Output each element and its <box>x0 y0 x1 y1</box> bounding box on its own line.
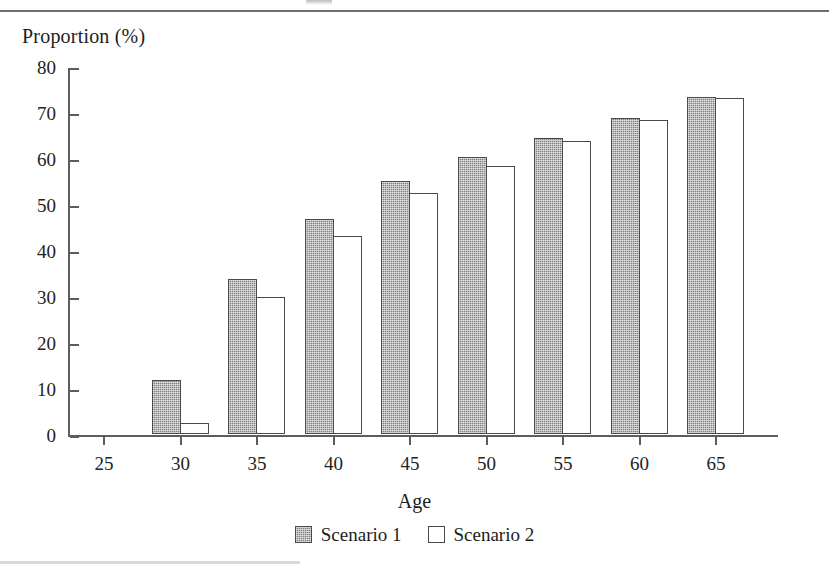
x-axis-tick-label: 30 <box>151 454 211 473</box>
bar-group <box>305 68 363 436</box>
y-axis-tick <box>70 436 79 438</box>
x-axis-tick <box>409 437 411 445</box>
x-axis-tick <box>333 437 335 445</box>
bar-scenario-2[interactable] <box>715 98 744 434</box>
plot-area: 01020304050607080 253035404550556065 <box>68 68 778 436</box>
bar-scenario-1[interactable] <box>305 219 334 434</box>
x-axis-tick-label: 35 <box>227 454 287 473</box>
y-axis-tick-label: 30 <box>10 288 56 307</box>
bar-scenario-2[interactable] <box>180 423 209 434</box>
x-axis-tick <box>256 437 258 445</box>
x-axis-tick <box>715 437 717 445</box>
bar-group <box>75 68 133 436</box>
bar-group <box>381 68 439 436</box>
bar-group <box>458 68 516 436</box>
x-axis-tick-label: 60 <box>610 454 670 473</box>
bar-scenario-1[interactable] <box>611 118 640 434</box>
bar-scenario-2[interactable] <box>639 120 668 434</box>
bar-chart-figure: Proportion (%) 01020304050607080 2530354… <box>0 10 829 568</box>
x-axis-tick-label: 50 <box>457 454 517 473</box>
x-axis-tick-label: 55 <box>533 454 593 473</box>
x-axis-tick <box>180 437 182 445</box>
bar-scenario-2[interactable] <box>486 166 515 434</box>
page-artifact-glyph <box>306 0 332 5</box>
y-axis-tick-label: 40 <box>10 242 56 261</box>
bar-group <box>687 68 745 436</box>
legend-item-scenario-1[interactable]: Scenario 1 <box>295 525 402 544</box>
bar-scenario-1[interactable] <box>458 157 487 434</box>
y-axis-tick-labels: 01020304050607080 <box>10 68 56 437</box>
bar-scenario-2[interactable] <box>562 141 591 434</box>
x-axis-tick <box>562 437 564 445</box>
legend-swatch-icon <box>295 526 312 543</box>
bar-scenario-1[interactable] <box>381 181 410 434</box>
y-axis-tick-label: 0 <box>10 426 56 445</box>
y-axis-tick-label: 50 <box>10 196 56 215</box>
x-axis-tick-label: 40 <box>304 454 364 473</box>
legend-swatch-icon <box>428 526 445 543</box>
bar-group <box>611 68 669 436</box>
bar-scenario-1[interactable] <box>687 97 716 434</box>
chart-legend: Scenario 1Scenario 2 <box>0 525 829 544</box>
bar-scenario-1[interactable] <box>534 138 563 434</box>
bar-scenario-2[interactable] <box>333 236 362 434</box>
y-axis-tick-label: 80 <box>10 58 56 77</box>
y-axis-tick-label: 10 <box>10 380 56 399</box>
x-axis-tick <box>639 437 641 445</box>
legend-item-scenario-2[interactable]: Scenario 2 <box>428 525 535 544</box>
bar-group <box>228 68 286 436</box>
legend-label: Scenario 2 <box>454 525 535 544</box>
x-axis-title: Age <box>0 490 829 513</box>
x-axis-tick-label: 25 <box>74 454 134 473</box>
bar-scenario-2[interactable] <box>409 193 438 435</box>
y-axis-tick-label: 20 <box>10 334 56 353</box>
bar-group <box>534 68 592 436</box>
bar-scenario-2[interactable] <box>256 297 285 434</box>
y-axis-title: Proportion (%) <box>22 25 145 48</box>
x-axis-tick-label: 65 <box>686 454 746 473</box>
legend-label: Scenario 1 <box>321 525 402 544</box>
y-axis-tick-label: 60 <box>10 150 56 169</box>
y-axis-tick-label: 70 <box>10 104 56 123</box>
bar-group <box>152 68 210 436</box>
bar-scenario-1[interactable] <box>228 279 257 434</box>
x-axis-tick-label: 45 <box>380 454 440 473</box>
x-axis-tick <box>103 437 105 445</box>
bar-scenario-1[interactable] <box>152 380 181 434</box>
x-axis-tick <box>486 437 488 445</box>
